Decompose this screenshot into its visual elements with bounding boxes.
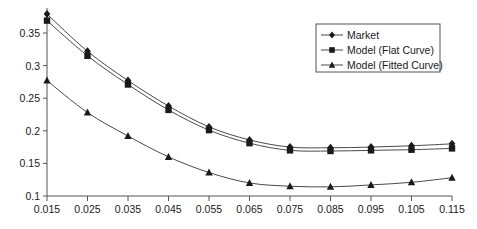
- marker-triangle: [448, 174, 455, 181]
- x-axis-ticks: 0.0150.0250.0350.0450.0550.0650.0750.085…: [34, 196, 465, 215]
- marker-square: [206, 127, 212, 133]
- y-tick-label: 0.1: [25, 190, 40, 202]
- x-tick-label: 0.065: [236, 203, 262, 215]
- legend-item-label: Model (Flat Curve): [347, 44, 434, 56]
- marker-square: [408, 147, 414, 153]
- y-tick-label: 0.15: [20, 157, 41, 169]
- x-tick-label: 0.015: [34, 203, 60, 215]
- x-tick-label: 0.045: [155, 203, 181, 215]
- x-tick-label: 0.115: [439, 203, 465, 215]
- y-tick-label: 0.3: [25, 60, 40, 72]
- marker-square: [329, 47, 335, 53]
- x-tick-label: 0.055: [196, 203, 222, 215]
- marker-triangle: [124, 132, 131, 139]
- marker-square: [327, 148, 333, 154]
- x-tick-label: 0.085: [317, 203, 343, 215]
- marker-square: [44, 17, 50, 23]
- marker-square: [125, 81, 131, 87]
- x-tick-label: 0.095: [358, 203, 384, 215]
- legend-item-label: Model (Fitted Curve): [347, 59, 443, 71]
- chart-legend: MarketModel (Flat Curve)Model (Fitted Cu…: [316, 24, 443, 72]
- y-tick-label: 0.35: [20, 27, 41, 39]
- marker-square: [368, 147, 374, 153]
- marker-square: [84, 53, 90, 59]
- chart-container: 0.10.150.20.250.30.350.0150.0250.0350.04…: [0, 0, 477, 229]
- marker-triangle: [165, 153, 172, 160]
- line-chart: 0.10.150.20.250.30.350.0150.0250.0350.04…: [0, 0, 477, 229]
- marker-triangle: [43, 77, 50, 84]
- marker-square: [165, 107, 171, 113]
- marker-square: [287, 147, 293, 153]
- series-model-fitted-curve: [43, 77, 455, 190]
- marker-square: [246, 140, 252, 146]
- marker-square: [449, 145, 455, 151]
- series-line: [47, 81, 452, 187]
- x-tick-label: 0.075: [277, 203, 303, 215]
- legend-item-label: Market: [347, 29, 379, 41]
- y-tick-label: 0.25: [20, 92, 41, 104]
- marker-triangle: [84, 109, 91, 116]
- x-tick-label: 0.035: [115, 203, 141, 215]
- x-tick-label: 0.025: [74, 203, 100, 215]
- y-axis-ticks: 0.10.150.20.250.30.35: [20, 27, 47, 202]
- y-tick-label: 0.2: [25, 125, 40, 137]
- x-tick-label: 0.105: [398, 203, 424, 215]
